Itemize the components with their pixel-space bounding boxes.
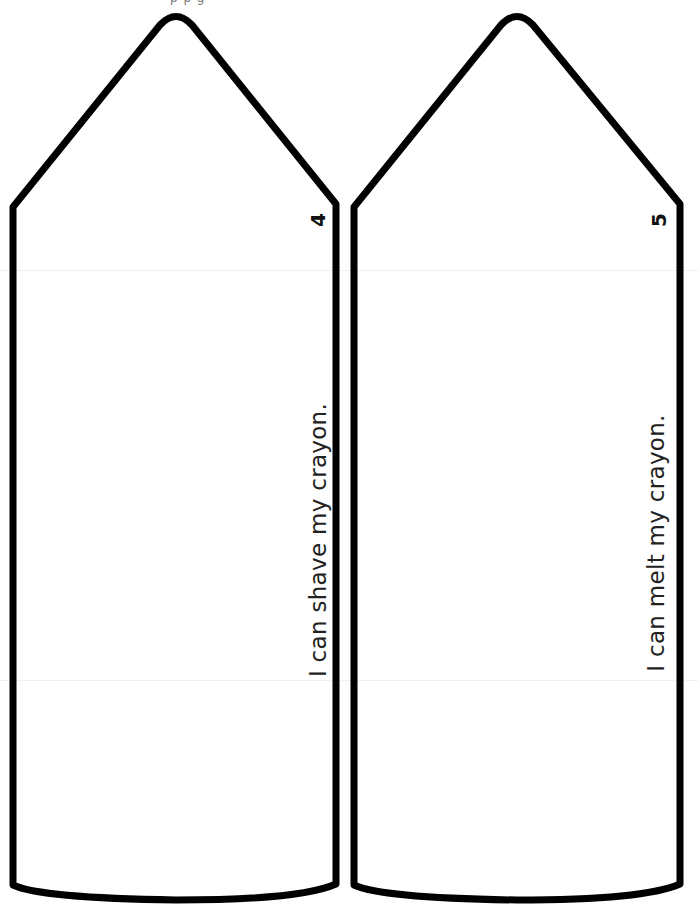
crayon-outline-right (354, 17, 680, 901)
crayon-outlines (0, 0, 698, 907)
page-number-right: 5 (649, 210, 671, 230)
worksheet-page: p p g 4 I can shave my crayon. 5 I can m… (0, 0, 698, 907)
caption-left: I can shave my crayon. (307, 400, 333, 680)
caption-right: I can melt my crayon. (645, 411, 671, 676)
page-number-left: 4 (308, 210, 330, 230)
crayon-outline-left (13, 17, 336, 901)
